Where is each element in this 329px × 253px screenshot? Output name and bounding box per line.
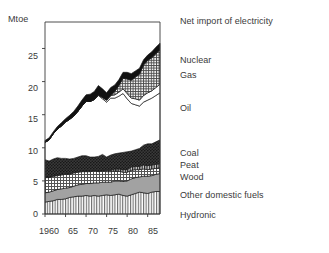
legend-label-nuclear: Nuclear (180, 55, 211, 65)
plot-area (0, 0, 329, 253)
energy-supply-stacked-area-chart: Mtoe 25 20 15 10 5 0 1960 65 70 75 80 85 (0, 0, 329, 253)
legend-label-oil: Oil (180, 103, 191, 113)
legend-label-other-domestic-fuels: Other domestic fuels (180, 190, 264, 200)
legend-label-wood: Wood (180, 172, 204, 182)
legend-label-hydronic: Hydronic (180, 210, 216, 220)
legend-label-coal: Coal (180, 148, 199, 158)
legend-label-net-import-of-electricity: Net import of electricity (180, 16, 273, 26)
legend-label-gas: Gas (180, 70, 197, 80)
series-layers (45, 43, 160, 214)
legend-label-peat: Peat (180, 160, 199, 170)
